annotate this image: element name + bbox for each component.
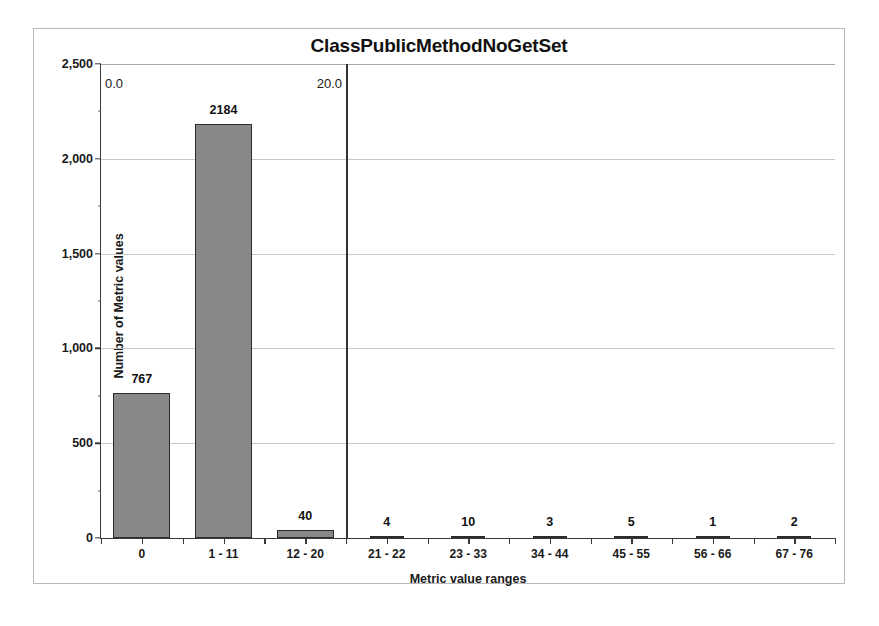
- y-axis-tick: [95, 63, 101, 64]
- y-axis-tick-label: 500: [72, 436, 93, 450]
- x-axis-tick-label: 45 - 55: [613, 547, 650, 561]
- x-axis-tick-label: 0: [138, 547, 145, 561]
- x-axis-tick: [713, 538, 714, 544]
- bar-value-label: 767: [131, 372, 152, 386]
- x-axis-boundary-tick: [835, 538, 836, 544]
- bar-value-label: 10: [461, 515, 475, 529]
- x-axis-tick-label: 21 - 22: [368, 547, 405, 561]
- x-axis-boundary-tick: [346, 538, 347, 544]
- x-axis-boundary-tick: [672, 538, 673, 544]
- y-axis-tick: [95, 253, 101, 254]
- plot-area: Metric value ranges 05001,0001,5002,0002…: [100, 64, 835, 539]
- x-axis-boundary-tick: [754, 538, 755, 544]
- threshold-line: [346, 64, 348, 538]
- y-axis-tick-label: 2,000: [62, 152, 93, 166]
- x-axis-tick: [550, 538, 551, 544]
- x-axis-boundary-tick: [428, 538, 429, 544]
- bar[interactable]: [113, 393, 170, 538]
- bar-value-label: 40: [298, 509, 312, 523]
- y-axis-tick: [95, 158, 101, 159]
- bar-value-label: 3: [546, 515, 553, 529]
- y-axis-minor-tick: [98, 111, 102, 112]
- x-axis-tick: [794, 538, 795, 544]
- y-axis-tick-label: 0: [86, 531, 93, 545]
- chart-title: ClassPublicMethodNoGetSet: [34, 35, 844, 57]
- y-axis-tick-label: 1,000: [62, 341, 93, 355]
- chart-frame: ClassPublicMethodNoGetSet Number of Metr…: [33, 28, 845, 584]
- range-label-min: 0.0: [105, 76, 123, 91]
- gridline: [101, 64, 835, 65]
- bar-value-label: 2: [791, 515, 798, 529]
- y-axis-minor-tick: [98, 490, 102, 491]
- bar-value-label: 5: [628, 515, 635, 529]
- y-axis-tick-label: 2,500: [62, 57, 93, 71]
- x-axis-tick: [468, 538, 469, 544]
- y-axis-tick: [95, 348, 101, 349]
- y-axis-tick: [95, 442, 101, 443]
- x-axis-tick: [387, 538, 388, 544]
- x-axis-tick-label: 56 - 66: [694, 547, 731, 561]
- bar-value-label: 2184: [210, 103, 238, 117]
- x-axis-tick-label: 23 - 33: [450, 547, 487, 561]
- x-axis-tick: [305, 538, 306, 544]
- x-axis-tick-label: 12 - 20: [286, 547, 323, 561]
- bar[interactable]: [277, 530, 334, 538]
- x-axis-tick-label: 67 - 76: [776, 547, 813, 561]
- bar-value-label: 1: [709, 515, 716, 529]
- x-axis-tick: [224, 538, 225, 544]
- y-axis-minor-tick: [98, 395, 102, 396]
- range-label-max: 20.0: [317, 76, 342, 91]
- bar[interactable]: [195, 124, 252, 538]
- x-axis-tick-label: 1 - 11: [208, 547, 238, 561]
- x-axis-tick-label: 34 - 44: [531, 547, 568, 561]
- x-axis-tick: [142, 538, 143, 544]
- x-axis-boundary-tick: [183, 538, 184, 544]
- y-axis-tick-label: 1,500: [62, 247, 93, 261]
- y-axis-minor-tick: [98, 206, 102, 207]
- x-axis-boundary-tick: [264, 538, 265, 544]
- x-axis-boundary-tick: [591, 538, 592, 544]
- x-axis-title: Metric value ranges: [101, 572, 835, 586]
- x-axis-boundary-tick: [101, 538, 102, 544]
- y-axis-minor-tick: [98, 301, 102, 302]
- x-axis-tick: [631, 538, 632, 544]
- bar-value-label: 4: [383, 515, 390, 529]
- x-axis-boundary-tick: [509, 538, 510, 544]
